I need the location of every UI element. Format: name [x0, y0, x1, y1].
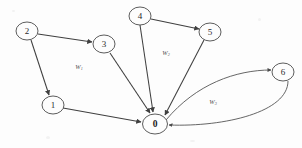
node-4[interactable]: 4 — [129, 7, 151, 25]
edge-1-to-0 — [63, 108, 141, 122]
node-1[interactable]: 1 — [42, 96, 64, 114]
edge-6-to-0-lower-arc — [169, 81, 288, 125]
weight-left-subscript: 1 — [81, 66, 83, 71]
edge-group — [31, 19, 288, 125]
edge-0-to-6-upper-arc — [166, 70, 271, 120]
node-2-label: 2 — [25, 26, 30, 36]
weight-label-middle: W2 — [162, 49, 170, 57]
node-2[interactable]: 2 — [16, 22, 38, 40]
graph-diagram-canvas: 2 3 4 5 6 1 — [0, 0, 302, 148]
node-group: 2 3 4 5 6 1 — [16, 7, 294, 134]
node-0-label: 0 — [153, 119, 158, 129]
node-5-label: 5 — [208, 27, 213, 37]
edge-4-to-5 — [151, 19, 199, 29]
weight-label-left: W1 — [75, 63, 83, 71]
node-3[interactable]: 3 — [93, 35, 115, 53]
weight-label-right: W3 — [209, 98, 217, 106]
edge-3-to-0 — [110, 53, 150, 113]
node-0[interactable]: 0 — [143, 114, 168, 134]
node-5[interactable]: 5 — [199, 23, 221, 41]
edge-4-to-0 — [140, 25, 153, 112]
edge-2-to-3 — [38, 34, 92, 42]
node-6[interactable]: 6 — [272, 63, 294, 81]
edge-5-to-0 — [165, 40, 204, 115]
node-3-label: 3 — [102, 39, 107, 49]
node-4-label: 4 — [138, 11, 143, 21]
weight-middle-subscript: 2 — [168, 52, 170, 57]
node-6-label: 6 — [281, 67, 286, 77]
edge-2-to-1 — [31, 40, 49, 95]
node-1-label: 1 — [51, 100, 56, 110]
weight-right-subscript: 3 — [215, 101, 217, 106]
graph-svg: 2 3 4 5 6 1 — [0, 0, 302, 148]
